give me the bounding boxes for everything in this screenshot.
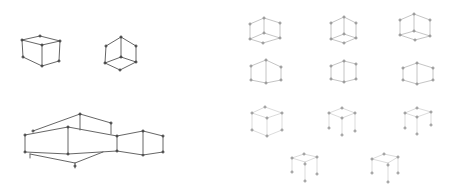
background — [0, 0, 454, 196]
sketch-canvas — [0, 0, 454, 196]
